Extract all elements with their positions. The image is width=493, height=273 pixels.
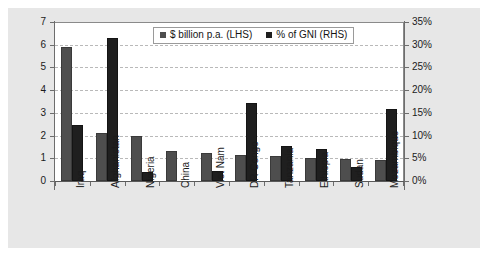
right-axis-tick xyxy=(404,67,409,68)
x-axis-tick xyxy=(264,182,265,186)
right-axis-tick xyxy=(404,158,409,159)
bar-lhs xyxy=(305,158,316,181)
left-axis-tick-label: 5 xyxy=(16,62,46,72)
right-axis-tick xyxy=(404,45,409,46)
chart-figure-panel: 01234567 0%5%10%15%20%25%30%35% IraqAfgh… xyxy=(8,8,480,248)
category-label-text: DR Congo xyxy=(250,141,260,188)
category-label-text: Afghanistan xyxy=(111,135,121,188)
bar-lhs xyxy=(96,133,107,181)
right-axis-tick xyxy=(404,22,409,23)
right-axis-tick-label: 10% xyxy=(412,131,452,141)
bar-lhs xyxy=(235,155,246,181)
left-axis-tick-label: 6 xyxy=(16,40,46,50)
category-label-text: Nigeria xyxy=(146,156,156,188)
x-axis-tick xyxy=(229,182,230,186)
right-axis-tick xyxy=(404,136,409,137)
x-axis-tick xyxy=(403,182,404,186)
caption-remnant: — — — — — — — — xyxy=(6,264,186,268)
bar-lhs xyxy=(201,153,212,181)
right-axis-tick-label: 15% xyxy=(412,108,452,118)
right-axis-tick-label: 0% xyxy=(412,176,452,186)
left-axis-tick-label: 4 xyxy=(16,85,46,95)
bar-lhs xyxy=(131,136,142,181)
right-axis-tick-label: 30% xyxy=(412,40,452,50)
category-label-text: Viet Nam xyxy=(216,147,226,188)
left-axis-tick-label: 7 xyxy=(16,17,46,27)
x-axis-tick xyxy=(90,182,91,186)
chart-legend: $ billion p.a. (LHS)% of GNI (RHS) xyxy=(153,27,354,44)
x-axis-tick xyxy=(55,182,56,186)
legend-label: % of GNI (RHS) xyxy=(276,30,347,40)
right-axis-tick xyxy=(404,113,409,114)
right-axis-tick-label: 35% xyxy=(412,17,452,27)
bar-lhs xyxy=(270,156,281,181)
right-axis-tick-label: 25% xyxy=(412,62,452,72)
bars-layer xyxy=(55,22,403,181)
x-axis-tick xyxy=(125,182,126,186)
bar-lhs xyxy=(375,160,386,181)
left-axis-tick-label: 0 xyxy=(16,176,46,186)
right-axis-tick xyxy=(404,90,409,91)
x-axis-tick xyxy=(299,182,300,186)
x-axis-tick xyxy=(159,182,160,186)
legend-swatch-icon xyxy=(160,32,166,38)
left-axis-tick-label: 2 xyxy=(16,131,46,141)
right-axis-spine xyxy=(404,21,405,190)
left-axis-tick-label: 1 xyxy=(16,153,46,163)
category-label-text: China xyxy=(181,162,191,188)
bar-lhs xyxy=(166,151,177,181)
category-label-text: Mozambique xyxy=(390,131,400,188)
category-label-text: Tanzania xyxy=(285,148,295,188)
legend-label: $ billion p.a. (LHS) xyxy=(170,30,252,40)
right-axis-tick xyxy=(404,181,409,182)
bar-lhs xyxy=(340,159,351,181)
legend-entry: % of GNI (RHS) xyxy=(266,30,347,40)
bar-lhs xyxy=(61,47,72,181)
right-axis-tick-label: 20% xyxy=(412,85,452,95)
category-label-text: Iraq xyxy=(76,171,86,188)
x-axis-tick xyxy=(333,182,334,186)
legend-swatch-icon xyxy=(266,32,272,38)
x-axis-tick xyxy=(368,182,369,186)
x-axis-tick xyxy=(194,182,195,186)
legend-entry: $ billion p.a. (LHS) xyxy=(160,30,252,40)
left-axis-tick-label: 3 xyxy=(16,108,46,118)
category-label-text: Sudan xyxy=(355,159,365,188)
right-axis-tick-label: 5% xyxy=(412,153,452,163)
category-label-text: Ethiopia xyxy=(320,152,330,188)
